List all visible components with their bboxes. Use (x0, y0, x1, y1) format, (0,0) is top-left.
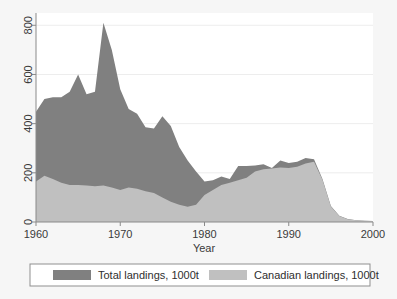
x-tick-label-1990: 1990 (277, 228, 301, 240)
x-tick-label-1970: 1970 (108, 228, 132, 240)
legend-swatch-total-landings (53, 270, 91, 280)
y-tick-label-600: 600 (22, 65, 34, 83)
y-tick-label-400: 400 (22, 114, 34, 132)
x-tick-label-2000: 2000 (361, 228, 385, 240)
area-chart: 0200400600800 19601970198019902000 Year … (0, 0, 397, 299)
y-tick-label-200: 200 (22, 164, 34, 182)
chart-figure: 0200400600800 19601970198019902000 Year … (0, 0, 397, 299)
chart-legend: Total landings, 1000t Canadian landings,… (30, 264, 379, 286)
y-tick-label-800: 800 (22, 16, 34, 34)
legend-swatch-canadian-landings (209, 270, 247, 280)
legend-label-total-landings: Total landings, 1000t (98, 269, 199, 281)
legend-label-canadian-landings: Canadian landings, 1000t (254, 269, 379, 281)
x-axis-title: Year (193, 242, 216, 254)
x-tick-label-1980: 1980 (192, 228, 216, 240)
x-tick-label-1960: 1960 (24, 228, 48, 240)
y-tick-label-0: 0 (22, 219, 34, 225)
